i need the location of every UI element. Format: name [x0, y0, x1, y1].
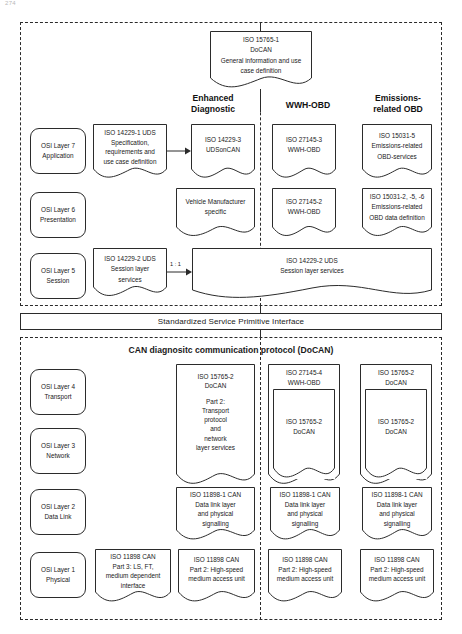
- iso-11898-can-part2-emissions-box: ISO 11898 CAN Part 2: High-speed medium …: [360, 549, 434, 604]
- text-line: ISO 15765-2: [363, 368, 429, 378]
- text-line: Specification,: [96, 138, 164, 148]
- text-line: UDSonCAN: [194, 145, 252, 155]
- text-line: ISO 14229-1 UDS: [96, 128, 164, 138]
- iso-11898-part3-text: ISO 11898 CAN Part 3: LS, FT, medium dep…: [95, 549, 171, 590]
- text-line: OSI Layer 3: [41, 441, 75, 451]
- text-line: OSI Layer 1: [41, 565, 75, 575]
- iso-11898-1-wwh-text: ISO 11898-1 CAN Data link layer and phys…: [270, 487, 340, 528]
- vehicle-manufacturer-text: Vehicle Manufacturer specific: [176, 188, 255, 218]
- iso-15765-2-docan-wwh-inner-box: ISO 15765-2 DoCAN: [273, 389, 335, 479]
- arrow-session-to-wide: [167, 267, 192, 277]
- lower-section-column-divider: [260, 337, 261, 620]
- text-line: Data Link: [41, 512, 75, 522]
- iso-11898-can-part2-enhanced-box: ISO 11898 CAN Part 2: High-speed medium …: [178, 549, 255, 604]
- arrow-uds-to-udsoncan: [167, 146, 191, 156]
- text-line: ISO 27145-3: [275, 135, 333, 145]
- text-line: Data link layer: [273, 500, 337, 510]
- text-line: ISO 11898-1 CAN: [273, 490, 337, 500]
- iso-11898-1-can-datalink-emissions-box: ISO 11898-1 CAN Data link layer and phys…: [362, 487, 432, 542]
- iso-15765-2-emissions-header-text: ISO 15765-2 DoCAN: [360, 364, 432, 389]
- iso-27145-2-text: ISO 27145-2 WWH-OBD: [272, 188, 336, 218]
- text-line: Part 2:: [179, 397, 252, 406]
- iso-27145-2-wwh-obd-box: ISO 27145-2 WWH-OBD: [272, 188, 336, 238]
- iso-11898-1-enhanced-text: ISO 11898-1 CAN Data link layer and phys…: [176, 487, 255, 528]
- iso-14229-1-uds-spec-box: ISO 14229-1 UDS Specification, requireme…: [93, 124, 167, 180]
- arrow-icon: [167, 146, 191, 156]
- text-line: DoCAN: [368, 427, 424, 437]
- text-line: WWH-OBD: [275, 145, 333, 155]
- text-line: medium access unit: [271, 574, 339, 584]
- osi-layer-1-label: OSI Layer 1 Physical: [30, 552, 86, 598]
- iso-14229-2-text: ISO 14229-2 UDS Session layer services: [93, 248, 167, 285]
- text-line: ISO 15765-1: [213, 35, 309, 45]
- iso-15765-2-transport-text: ISO 15765-2 DoCAN Part 2: Transport prot…: [176, 364, 255, 452]
- text-line: Emissions-related: [365, 202, 429, 212]
- iso-15031-5-emissions-box: ISO 15031-5 Emissions-related OBD-servic…: [362, 124, 432, 180]
- text-line: OBD data definition: [365, 213, 429, 223]
- text-line: protocol: [179, 415, 252, 424]
- text-line: OSI Layer 6: [40, 205, 76, 215]
- iso-27145-4-header-text: ISO 27145-4 WWH-OBD: [268, 364, 340, 389]
- text-line: and physical: [273, 509, 337, 519]
- text-line: Application: [41, 151, 75, 161]
- text-line: Session: [41, 276, 75, 286]
- iso-27145-3-wwh-obd-box: ISO 27145-3 WWH-OBD: [272, 124, 336, 180]
- title-line: Enhanced: [170, 93, 256, 104]
- text-line: OSI Layer 2: [41, 502, 75, 512]
- iso-11898-can-part2-wwh-box: ISO 11898 CAN Part 2: High-speed medium …: [268, 549, 342, 604]
- iso-15765-2-emissions-inner-text: ISO 15765-2 DoCAN: [365, 389, 427, 438]
- iso-11898-1-can-datalink-enhanced-box: ISO 11898-1 CAN Data link layer and phys…: [176, 487, 255, 542]
- text-line: ISO 27145-2: [275, 197, 333, 207]
- text-line: Data link layer: [365, 500, 429, 510]
- text-line: requirements and: [96, 147, 164, 157]
- text-line: OSI Layer 4: [41, 382, 75, 392]
- interface-bar-label: Standardized Service Primitive Interface: [158, 317, 304, 326]
- iso-15765-2-wwh-inner-text: ISO 15765-2 DoCAN: [273, 389, 335, 438]
- iso-14229-2-wide-text: ISO 14229-2 UDS Session layer services: [192, 248, 432, 277]
- text-line: case definition: [213, 66, 309, 76]
- iso-11898-part2-emissions-text: ISO 11898 CAN Part 2: High-speed medium …: [360, 549, 434, 584]
- text-line: WWH-OBD: [275, 207, 333, 217]
- text-line: Part 2: High-speed: [181, 565, 252, 575]
- text-line: Physical: [41, 575, 75, 585]
- iso-15765-2-docan-transport-enhanced-box: ISO 15765-2 DoCAN Part 2: Transport prot…: [176, 364, 255, 486]
- text-line: DoCAN: [276, 427, 332, 437]
- text-line: signalling: [365, 519, 429, 529]
- iso-14229-3-udsoncan-box: ISO 14229-3 UDSonCAN: [191, 124, 255, 180]
- docan-trunk-line-interface: [260, 306, 261, 314]
- iso-27145-3-text: ISO 27145-3 WWH-OBD: [272, 124, 336, 156]
- title-line: related OBD: [356, 104, 440, 115]
- text-line: medium access unit: [363, 574, 431, 584]
- text-line: Part 3: LS, FT,: [98, 562, 168, 572]
- iso-15765-1-docan-box: ISO 15765-1 DoCAN General information an…: [210, 31, 312, 89]
- iso-14229-2-uds-session-box: ISO 14229-2 UDS Session layer services: [93, 248, 167, 298]
- text-line: ISO 11898 CAN: [98, 552, 168, 562]
- osi-layer-3-label: OSI Layer 3 Network: [30, 428, 86, 474]
- vehicle-manufacturer-specific-box: Vehicle Manufacturer specific: [176, 188, 255, 238]
- text-line: specific: [179, 207, 252, 217]
- text-line: ISO 15765-2: [276, 417, 332, 427]
- iso-15765-1-text: ISO 15765-1 DoCAN General information an…: [210, 31, 312, 76]
- text-line: network: [179, 434, 252, 443]
- text-line: Transport: [179, 406, 252, 415]
- column-title-wwh-obd: WWH-OBD: [266, 100, 350, 111]
- osi-layer-4-label: OSI Layer 4 Transport: [30, 369, 86, 415]
- text-line: medium access unit: [181, 574, 252, 584]
- osi-layer-7-label: OSI Layer 7 Application: [30, 128, 86, 174]
- text-line: OSI Layer 5: [41, 266, 75, 276]
- text-line: ISO 11898 CAN: [181, 555, 252, 565]
- text-line: ISO 15031-5: [365, 131, 429, 141]
- title-line: Diagnostic: [170, 104, 256, 115]
- iso-14229-2-session-layer-services-wide-box: ISO 14229-2 UDS Session layer services: [192, 248, 432, 298]
- text-line: Transport: [41, 392, 75, 402]
- text-line: use case definition: [96, 157, 164, 167]
- text-line: ISO 14229-2 UDS: [96, 254, 164, 264]
- text-line: layer services: [179, 443, 252, 452]
- title-line: WWH-OBD: [266, 100, 350, 111]
- text-line: OBD-services: [365, 152, 429, 162]
- text-line: Network: [41, 451, 75, 461]
- iso-15765-2-docan-emissions-inner-box: ISO 15765-2 DoCAN: [365, 389, 427, 479]
- osi-layer-2-label: OSI Layer 2 Data Link: [30, 489, 86, 535]
- text-line: Part 2: High-speed: [363, 565, 431, 575]
- text-line: OSI Layer 7: [41, 141, 75, 151]
